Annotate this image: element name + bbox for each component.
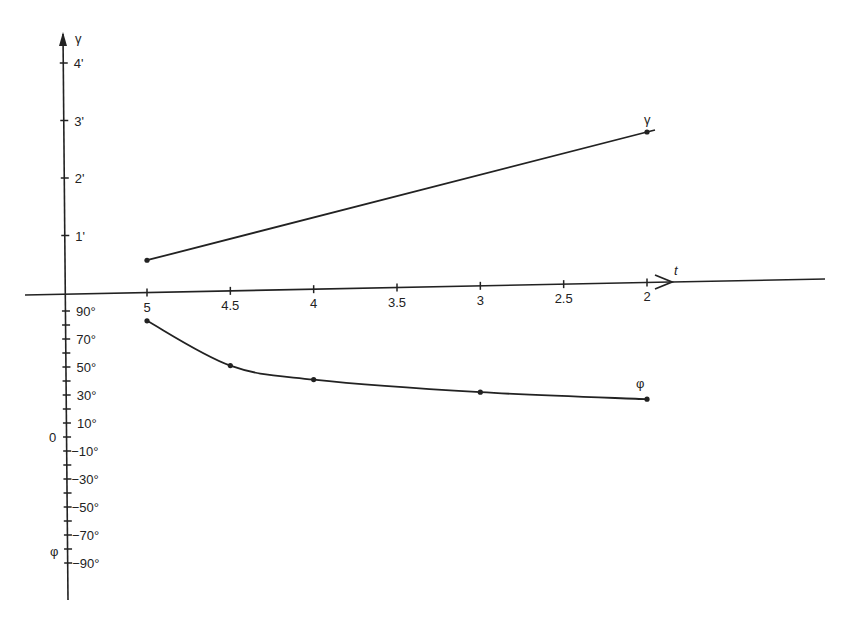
data-point [644,129,649,134]
x-tick-label: 4.5 [221,298,239,313]
data-point [311,377,316,382]
phi-series: φ [144,318,649,402]
phi-tick-label: 30° [77,388,97,403]
phi-tick-label: 70° [76,332,96,347]
data-point [644,397,649,402]
gamma-tick-label: 4' [74,56,84,71]
gamma-tick-label: 3' [74,114,84,129]
t-axis: t 54.543.532.52 [25,263,825,315]
phi-axis-label: φ [50,544,58,559]
phi-tick-label: −50° [72,500,99,515]
phi-series-label: φ [636,376,644,391]
phi-tick-label: 10° [77,416,97,431]
gamma-tick-label: 1' [75,229,85,244]
arrow-up-icon [59,32,67,46]
phi-tick-label: 90° [76,304,96,319]
gamma-series-label: γ [644,112,651,127]
x-tick-label: 5 [143,300,150,315]
phi-tick-label: 50° [76,360,96,375]
gamma-series: γ [144,112,655,263]
phi-tick-label: −30° [71,472,98,487]
t-axis-label: t [674,263,679,278]
x-tick-label: 4 [310,296,317,311]
phi-tick-label: −90° [72,556,99,571]
data-point [144,258,149,263]
data-point [144,318,149,323]
zero-label: 0 [49,430,56,445]
chart: t 54.543.532.52 γ 1'2'3'4' 90°70°50°30°1… [0,0,850,638]
data-point [228,363,233,368]
x-tick-label: 3 [477,293,484,308]
gamma-axis-label: γ [75,31,82,46]
phi-tick-label: −70° [72,528,99,543]
x-tick-label: 2.5 [555,291,573,306]
data-point [478,390,483,395]
x-tick-label: 2 [643,289,650,304]
gamma-tick-label: 2' [75,171,85,186]
phi-tick-label: −10° [71,444,98,459]
x-tick-label: 3.5 [388,295,406,310]
vertical-axis: γ 1'2'3'4' 90°70°50°30°10°−10°−30°−50°−7… [49,31,99,600]
